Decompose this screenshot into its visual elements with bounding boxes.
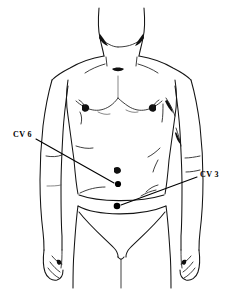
point-label-cv3: CV 3 bbox=[200, 171, 219, 179]
leader-line-cv6 bbox=[36, 139, 114, 183]
torso-outline-group bbox=[67, 80, 177, 194]
anatomical-figure: CV 6 CV 3 bbox=[0, 0, 233, 291]
abdomen-group bbox=[76, 146, 160, 196]
right-arm-group bbox=[165, 80, 203, 280]
annotation-group bbox=[36, 139, 197, 209]
pelvis-group bbox=[73, 195, 171, 288]
point-label-cv6: CV 6 bbox=[13, 131, 32, 139]
point-dot-cv6[interactable] bbox=[115, 181, 121, 187]
point-dot-cv3[interactable] bbox=[114, 203, 121, 210]
leader-line-cv3 bbox=[121, 177, 197, 205]
chest-group bbox=[76, 76, 163, 124]
torso-illustration bbox=[0, 0, 233, 291]
left-arm-group bbox=[40, 80, 68, 280]
neck-group bbox=[98, 8, 144, 71]
